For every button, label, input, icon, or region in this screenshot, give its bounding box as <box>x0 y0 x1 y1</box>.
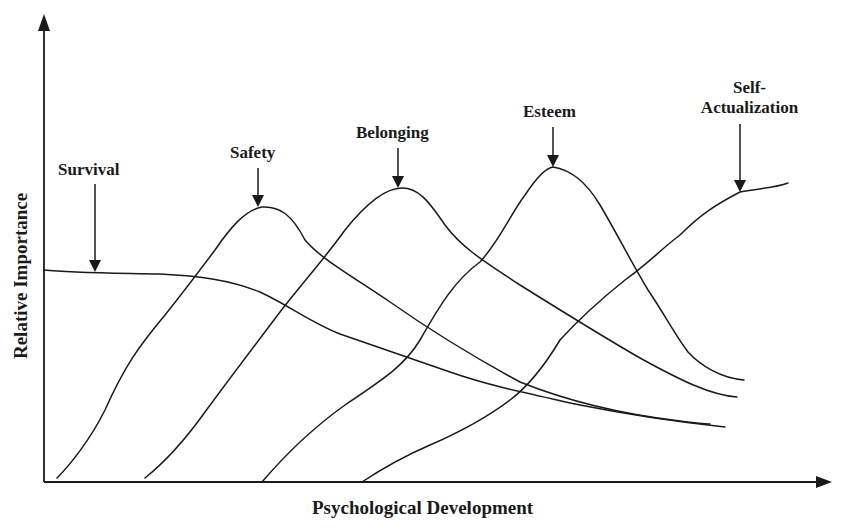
belonging-label: Belonging <box>356 123 429 143</box>
safety-arrow-icon <box>252 195 264 207</box>
pointer-arrows <box>89 124 746 272</box>
safety-label: Safety <box>230 143 275 163</box>
y-axis-title: Relative Importance <box>10 191 32 361</box>
esteem-label: Esteem <box>523 102 576 122</box>
safety-curve <box>57 207 710 478</box>
self-actualization-label-line1: Self- <box>697 78 802 98</box>
x-axis-title: Psychological Development <box>312 497 533 519</box>
self-actualization-arrow-icon <box>734 180 746 192</box>
survival-arrow-icon <box>89 260 101 272</box>
self-actualization-label: Self- Actualization <box>697 78 802 117</box>
y-axis-arrow-icon <box>38 14 50 31</box>
belonging-arrow-icon <box>392 176 404 188</box>
self-actualization-label-line2: Actualization <box>697 98 802 118</box>
esteem-arrow-icon <box>547 155 559 167</box>
belonging-curve <box>145 188 737 478</box>
x-axis-arrow-icon <box>816 476 832 488</box>
esteem-curve <box>262 167 744 482</box>
survival-label: Survival <box>58 160 119 180</box>
self-actualization-curve <box>362 183 788 482</box>
